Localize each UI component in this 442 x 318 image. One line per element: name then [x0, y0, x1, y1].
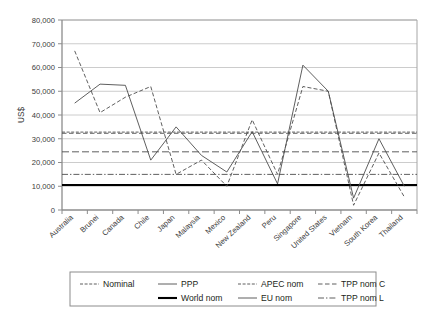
y-axis-tick-label: 70,000 — [32, 40, 55, 49]
y-axis-title: US$ — [17, 107, 26, 123]
y-axis-tick-label: 50,000 — [32, 87, 55, 96]
x-axis-tick-label: Malaysia — [174, 212, 203, 240]
y-axis-tick-label: 0 — [51, 206, 55, 215]
legend-label-ppp: PPP — [181, 279, 198, 289]
legend-label-apec-nom: APEC nom — [261, 279, 304, 289]
legend-border — [70, 272, 376, 306]
y-axis-tick-label: 80,000 — [32, 16, 55, 25]
chart-legend: NominalPPPAPEC nomTPP nom CWorld nomEU n… — [70, 272, 385, 306]
x-axis-tick-label: Mexico — [203, 213, 227, 236]
chart-figure: 010,00020,00030,00040,00050,00060,00070,… — [0, 0, 442, 318]
y-axis-tick-label: 30,000 — [32, 135, 55, 144]
x-axis-tick-label: Peru — [260, 213, 278, 231]
x-axis-tick-label: Japan — [155, 213, 176, 234]
y-axis: 010,00020,00030,00040,00050,00060,00070,… — [32, 16, 62, 215]
y-axis-tick-label: 10,000 — [32, 182, 55, 191]
x-axis-tick-label: Brunei — [78, 213, 100, 235]
legend-label-tpp-nom-l: TPP nom L — [341, 293, 384, 303]
x-axis-tick-label: Australia — [47, 212, 75, 239]
y-axis-tick-label: 60,000 — [32, 63, 55, 72]
x-axis-labels: AustraliaBruneiCanadaChileJapanMalaysiaM… — [47, 212, 404, 250]
legend-label-eu-nom: EU nom — [261, 293, 292, 303]
legend-label-world-nom: World nom — [181, 293, 222, 303]
y-axis-tick-label: 20,000 — [32, 158, 55, 167]
line-chart-svg: 010,00020,00030,00040,00050,00060,00070,… — [0, 0, 442, 318]
x-axis-tick-label: Thailand — [377, 213, 404, 239]
legend-label-nominal: Nominal — [103, 279, 135, 289]
x-axis-tick-label: Chile — [132, 213, 151, 231]
legend-label-tpp-nom-c: TPP nom C — [341, 279, 385, 289]
x-axis-tick-label: Canada — [100, 212, 126, 237]
y-axis-tick-label: 40,000 — [32, 111, 55, 120]
